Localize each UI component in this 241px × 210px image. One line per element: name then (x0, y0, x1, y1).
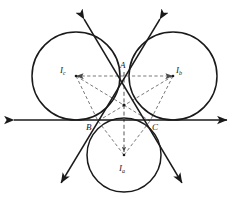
label-excenter-a-subscript: a (122, 168, 125, 174)
label-excenter-c: Ic (60, 66, 66, 75)
point-excenter-c (75, 75, 78, 78)
label-excenter-b-subscript: b (179, 70, 182, 76)
geometry-figure: A B C Ia Ib Ic (0, 0, 241, 210)
dashed-ia-to-c (124, 121, 150, 155)
label-excenter-a: Ia (119, 164, 125, 173)
label-vertex-a: A (120, 61, 126, 70)
label-excenter-c-subscript: c (63, 70, 66, 76)
label-vertex-c: C (152, 123, 158, 132)
label-excenter-b: Ib (176, 66, 182, 75)
label-vertex-a-text: A (120, 60, 126, 70)
point-incenter (122, 103, 125, 106)
line-ac (61, 19, 160, 183)
point-excenter-b (172, 75, 175, 78)
dashed-ia-to-b (98, 121, 124, 155)
line-ab (84, 19, 182, 183)
label-vertex-c-text: C (152, 122, 158, 132)
label-vertex-b: B (86, 123, 92, 132)
geometry-canvas (0, 0, 241, 210)
label-vertex-b-text: B (86, 122, 92, 132)
point-excenter-a (123, 154, 126, 157)
